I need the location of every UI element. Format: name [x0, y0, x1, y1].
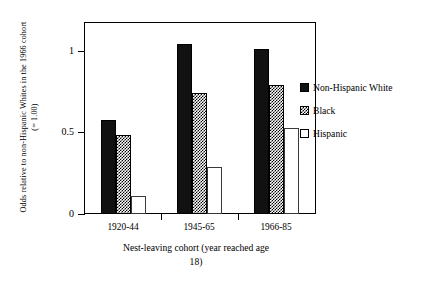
bar-group-1945-65 — [162, 23, 239, 214]
bar-group-1920-44 — [85, 23, 162, 214]
bar-black-1920-44 — [116, 135, 131, 214]
y-tick-label-1: 1 — [18, 46, 74, 56]
bar-non-hispanic-white-1945-65 — [177, 44, 192, 214]
bar-hispanic-1966-85 — [284, 128, 299, 214]
bar-non-hispanic-white-1966-85 — [254, 49, 269, 214]
bar-black-1966-85 — [269, 85, 284, 214]
x-tick-label-1920-44: 1920-44 — [88, 222, 158, 233]
bar-hispanic-1945-65 — [207, 167, 222, 214]
legend-item-hispanic: Hispanic — [300, 128, 437, 139]
y-axis-title: Odds relative to non-Hispanic Whites in … — [18, 12, 40, 222]
bar-chart-figure: Odds relative to non-Hispanic Whites in … — [0, 0, 437, 283]
y-tick-mark-0 — [78, 214, 85, 215]
legend-item-black: Black — [300, 105, 437, 116]
x-tick-mark-1 — [161, 214, 162, 220]
bar-non-hispanic-white-1920-44 — [101, 120, 116, 214]
bar-black-1945-65 — [192, 93, 207, 214]
x-axis-title-line1: Nest-leaving cohort (year reached age — [36, 241, 356, 255]
x-axis-title-line2: 18) — [36, 255, 356, 269]
y-tick-label-1-wrap: 1 — [12, 46, 74, 56]
plot-area — [85, 23, 315, 214]
x-tick-mark-2 — [238, 214, 239, 220]
y-tick-label-0: 0 — [18, 209, 74, 219]
y-tick-label-0-wrap: 0 — [12, 209, 74, 219]
legend-item-non-hispanic-white: Non-Hispanic White — [300, 82, 437, 93]
bar-hispanic-1920-44 — [131, 196, 146, 214]
legend-label-black: Black — [313, 105, 335, 116]
legend-swatch-hatched-icon — [300, 106, 309, 115]
legend: Non-Hispanic White Black Hispanic — [300, 82, 437, 151]
legend-swatch-empty-icon — [300, 129, 309, 138]
legend-label-hispanic: Hispanic — [313, 128, 347, 139]
x-tick-label-1966-85: 1966-85 — [241, 222, 311, 233]
legend-label-non-hispanic-white: Non-Hispanic White — [313, 82, 393, 93]
x-axis-title: Nest-leaving cohort (year reached age 18… — [36, 241, 356, 269]
legend-swatch-solid-black-icon — [300, 83, 309, 92]
y-tick-label-0point5: 0.5 — [18, 127, 74, 137]
x-tick-label-1945-65: 1945-65 — [164, 222, 234, 233]
y-tick-label-0point5-wrap: 0.5 — [12, 127, 74, 137]
y-axis-title-line2: (= 1.00) — [29, 12, 40, 222]
